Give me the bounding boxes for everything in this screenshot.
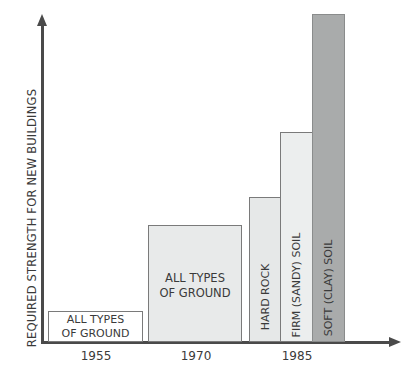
x-tick-1985: 1985 — [282, 349, 313, 363]
bar-label-soft-soil: SOFT (CLAY) SOIL — [322, 240, 336, 337]
x-tick-1970: 1970 — [181, 349, 212, 363]
y-axis — [41, 22, 44, 344]
bar-1955-all-ground: ALL TYPES OF GROUND — [48, 311, 143, 342]
bar-label-line2: OF GROUND — [149, 286, 241, 300]
bar-label-line1: ALL TYPES — [49, 313, 142, 327]
x-tick-1955: 1955 — [81, 349, 112, 363]
bar-label-line2: OF GROUND — [49, 327, 142, 341]
bar-label-hard-rock: HARD ROCK — [259, 264, 273, 331]
bar-label-firm-soil: FIRM (SANDY) SOIL — [290, 233, 304, 338]
bar-label-line1: ALL TYPES — [149, 271, 241, 285]
y-axis-arrow-icon — [37, 14, 47, 26]
bar-1970-all-ground: ALL TYPES OF GROUND — [148, 225, 242, 342]
x-axis-arrow-icon — [389, 337, 401, 347]
y-axis-label: REQUIRED STRENGTH FOR NEW BUILDINGS — [25, 89, 39, 347]
